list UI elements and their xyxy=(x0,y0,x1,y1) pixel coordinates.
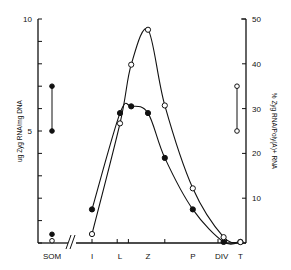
y-axis-label-left: ug Zyg RNA/mg DNA xyxy=(16,99,24,161)
x-tick-label: L xyxy=(118,252,123,261)
data-point-som xyxy=(50,238,55,243)
y-tick-label-right: 40 xyxy=(252,60,261,69)
curves xyxy=(92,29,240,245)
x-tick-label: SOM xyxy=(43,252,62,261)
x-tick-label: T xyxy=(238,252,243,261)
data-point xyxy=(162,103,167,108)
marks xyxy=(50,27,243,245)
data-point xyxy=(145,110,150,115)
x-tick-label: P xyxy=(190,252,195,261)
data-point xyxy=(129,62,134,67)
range-bar-end xyxy=(50,84,55,89)
series-curve xyxy=(92,103,240,244)
y-tick-label-right: 30 xyxy=(252,105,261,114)
range-bar-end xyxy=(50,129,55,134)
data-point xyxy=(89,231,94,236)
x-tick-label: I xyxy=(91,252,93,261)
data-point xyxy=(221,235,226,240)
range-bar-end xyxy=(235,84,240,89)
y-tick-label-right: 10 xyxy=(252,194,261,203)
data-point xyxy=(89,207,94,212)
data-point xyxy=(238,240,243,245)
x-tick-label: DIV xyxy=(215,252,229,261)
data-point xyxy=(190,186,195,191)
y-tick-label-right: 50 xyxy=(252,15,261,24)
x-tick-label: Z xyxy=(146,252,151,261)
data-point xyxy=(117,110,122,115)
axes: 5101020304050SOMILZPDIVT xyxy=(23,15,261,261)
range-bar-end xyxy=(235,129,240,134)
data-point xyxy=(190,207,195,212)
y-tick-label-left: 10 xyxy=(23,15,32,24)
data-point-som xyxy=(50,232,55,237)
y-tick-label-left: 5 xyxy=(28,127,33,136)
y-axis-label-right: % Zyg RNA/Poly(A)+ RNA xyxy=(270,93,278,170)
data-point xyxy=(129,104,134,109)
y-tick-label-right: 20 xyxy=(252,149,261,158)
data-point xyxy=(117,121,122,126)
chart: 5101020304050SOMILZPDIVT ug Zyg RNA/mg D… xyxy=(0,0,291,270)
series-curve xyxy=(92,29,240,243)
data-point xyxy=(162,155,167,160)
data-point xyxy=(145,27,150,32)
